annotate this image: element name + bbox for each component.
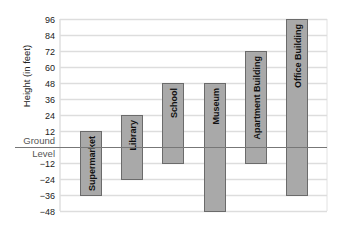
chart: 9684726048362412−12−24−36−48 Height (in … bbox=[0, 0, 337, 226]
y-axis-ticks: 9684726048362412−12−24−36−48 bbox=[40, 15, 55, 217]
bar-label: School bbox=[169, 88, 179, 118]
bar-label: Museum bbox=[211, 88, 221, 125]
y-tick-label: 84 bbox=[45, 31, 55, 41]
bar-label: Supermarket bbox=[87, 136, 97, 191]
y-tick-label: 48 bbox=[45, 79, 55, 89]
y-tick-label: 60 bbox=[45, 63, 55, 73]
y-tick-label: −24 bbox=[40, 175, 55, 185]
level-label: Level bbox=[32, 148, 55, 159]
y-tick-label: 72 bbox=[45, 47, 55, 57]
bar-label: Library bbox=[128, 120, 138, 151]
y-tick-label: −12 bbox=[40, 159, 55, 169]
y-axis-label: Height (in feet) bbox=[21, 45, 32, 107]
bar-label: Apartment Building bbox=[252, 56, 262, 140]
bar-label: Office Building bbox=[293, 24, 303, 88]
y-tick-label: 36 bbox=[45, 95, 55, 105]
y-tick-label: −36 bbox=[40, 191, 55, 201]
ground-label: Ground bbox=[23, 135, 55, 146]
y-tick-label: −48 bbox=[40, 207, 55, 217]
y-tick-label: 96 bbox=[45, 15, 55, 25]
y-tick-label: 24 bbox=[45, 111, 55, 121]
